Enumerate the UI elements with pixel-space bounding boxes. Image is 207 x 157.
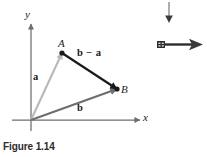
cursor-marks-group (155, 0, 207, 60)
point-b-label: B (121, 84, 128, 95)
down-arrow-icon (165, 2, 173, 23)
cursor-marks-svg (155, 0, 207, 60)
point-b-dot (114, 86, 119, 91)
y-axis-label: y (25, 9, 30, 20)
vector-b-label: b (77, 103, 83, 114)
point-a-dot (59, 50, 64, 55)
x-axis-label: x (143, 112, 148, 123)
figure-container: y x A B a b b − a Figure 1.14 (0, 0, 207, 157)
point-a-label: A (58, 38, 65, 49)
vector-diagram: y x A B a b b − a (0, 0, 160, 140)
vector-a-label: a (33, 72, 38, 83)
vector-diagram-svg (0, 0, 160, 140)
figure-caption: Figure 1.14 (3, 141, 55, 152)
vector-b-minus-a-label: b − a (77, 48, 101, 59)
right-arrow-icon (157, 39, 203, 50)
